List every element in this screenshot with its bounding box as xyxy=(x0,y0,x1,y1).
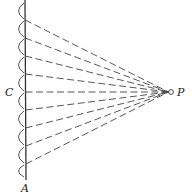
wavelet-arc xyxy=(19,111,25,127)
label-c: C xyxy=(5,87,13,98)
ray xyxy=(25,38,168,92)
point-p-marker xyxy=(169,90,174,95)
wavelet-arc xyxy=(19,93,25,109)
wavelet-arcs xyxy=(19,3,25,177)
wavelet-arc xyxy=(19,3,25,19)
wavelet-arc xyxy=(19,39,25,55)
wavefront-line xyxy=(25,0,26,180)
wavelet-arc xyxy=(19,165,25,177)
ray xyxy=(25,74,168,92)
ray xyxy=(26,92,169,110)
wavelet-arc xyxy=(19,75,25,91)
label-a: A xyxy=(21,183,29,194)
label-p: P xyxy=(177,87,184,98)
ray xyxy=(26,92,169,146)
wavelet-arc xyxy=(19,21,25,37)
ray xyxy=(25,56,168,92)
huygens-wavefront-diagram xyxy=(0,0,192,195)
dashed-rays xyxy=(25,20,168,164)
wavelet-arc xyxy=(19,57,25,73)
ray xyxy=(25,20,168,92)
ray xyxy=(26,92,169,164)
ray xyxy=(26,92,169,128)
wavelet-arc xyxy=(19,147,25,163)
wavelet-arc xyxy=(19,129,25,145)
